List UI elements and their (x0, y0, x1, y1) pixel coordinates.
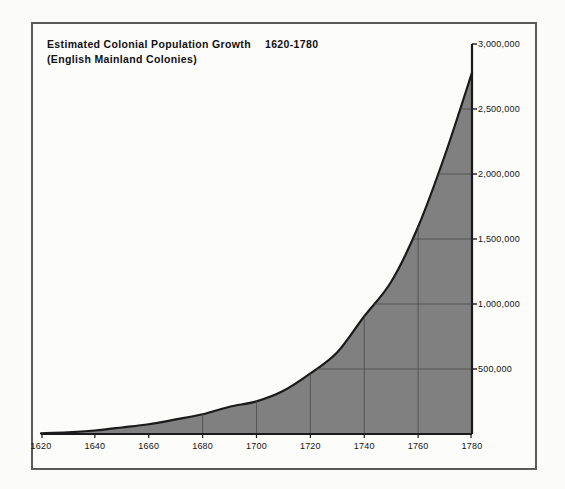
x-tick-label-1760: 1760 (408, 441, 429, 451)
x-tick-label-1660: 1660 (138, 441, 159, 451)
y-tick-label-500000: 500,000 (478, 364, 512, 374)
x-tick-label-1680: 1680 (192, 441, 213, 451)
y-tick-label-2000000: 2,000,000 (478, 169, 520, 179)
x-tick-label-1700: 1700 (246, 441, 267, 451)
x-tick-label-1740: 1740 (354, 441, 375, 451)
x-tick-label-1640: 1640 (84, 441, 105, 451)
population-area-series (41, 73, 472, 434)
y-tick-label-3000000: 3,000,000 (478, 39, 520, 49)
chart-screenshot: Estimated Colonial Population Growth1620… (0, 0, 565, 489)
y-tick-label-2500000: 2,500,000 (478, 104, 520, 114)
plot-svg (41, 44, 472, 434)
y-tick-label-1000000: 1,000,000 (478, 299, 520, 309)
y-tick-label-1500000: 1,500,000 (478, 234, 520, 244)
plot-area (41, 44, 472, 434)
x-tick-label-1620: 1620 (31, 441, 52, 451)
x-tick-label-1780: 1780 (462, 441, 483, 451)
x-tick-label-1720: 1720 (300, 441, 321, 451)
